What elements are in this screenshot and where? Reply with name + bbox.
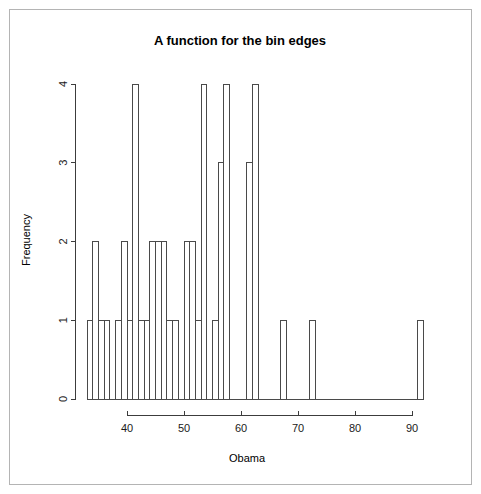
y-axis-tick-label: 4 — [57, 81, 69, 87]
histogram-bar — [116, 320, 122, 399]
histogram-bar — [418, 320, 424, 399]
x-axis-title: Obama — [229, 452, 266, 464]
histogram-bar — [252, 84, 258, 399]
histogram-bar — [144, 320, 150, 399]
y-axis-tick-label: 2 — [57, 238, 69, 244]
histogram-bar — [201, 84, 207, 399]
screenshot-root: A function for the bin edges 01234 40506… — [0, 0, 481, 494]
histogram-chart: A function for the bin edges 01234 40506… — [0, 0, 481, 494]
y-axis-tick-labels: 01234 — [57, 81, 69, 402]
x-axis-tick-label: 70 — [292, 422, 304, 434]
y-axis-line — [71, 84, 76, 399]
y-axis-tick-label: 1 — [57, 317, 69, 323]
x-axis-tick-label: 90 — [406, 422, 418, 434]
y-axis-title: Frequency — [20, 214, 32, 266]
y-axis-tick-label: 3 — [57, 160, 69, 166]
histogram-bar — [133, 84, 139, 399]
histogram-bar — [87, 320, 93, 399]
y-axis-tick-label: 0 — [57, 396, 69, 402]
histogram-bar — [167, 320, 173, 399]
x-axis-tick-labels: 405060708090 — [121, 422, 418, 434]
histogram-bar — [104, 320, 110, 399]
histogram-bar — [309, 320, 315, 399]
histogram-bar — [156, 242, 162, 400]
histogram-bar — [138, 320, 144, 399]
chart-title: A function for the bin edges — [154, 33, 326, 48]
x-axis-tick-label: 50 — [178, 422, 190, 434]
histogram-bar — [121, 242, 127, 400]
histogram-bar — [247, 163, 253, 399]
histogram-bar — [195, 320, 201, 399]
histogram-bar — [218, 163, 224, 399]
x-axis — [127, 411, 412, 416]
x-axis-line — [127, 411, 412, 416]
histogram-bar — [173, 320, 179, 399]
histogram-bar — [99, 320, 105, 399]
x-axis-tick-label: 80 — [349, 422, 361, 434]
histogram-bar — [150, 242, 156, 400]
histogram-bar — [281, 320, 287, 399]
histogram-bar — [184, 242, 190, 400]
y-axis — [71, 84, 76, 399]
x-axis-tick-label: 60 — [235, 422, 247, 434]
x-axis-tick-label: 40 — [121, 422, 133, 434]
histogram-bars — [87, 84, 423, 400]
histogram-bar — [127, 320, 133, 399]
histogram-bar — [161, 242, 167, 400]
histogram-bar — [213, 320, 219, 399]
histogram-bar — [93, 242, 99, 400]
histogram-bar — [190, 242, 196, 400]
histogram-bar — [224, 84, 230, 399]
